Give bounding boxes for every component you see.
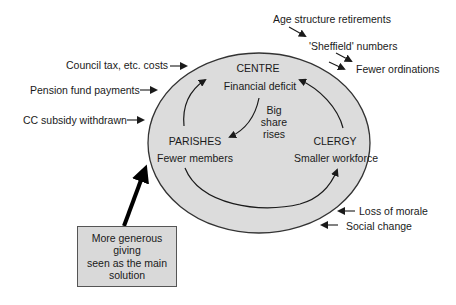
- pressure-council-tax: Council tax, etc. costs: [66, 59, 168, 71]
- solution-line-1: More generous: [92, 232, 163, 245]
- node-centre-title: CENTRE: [226, 62, 290, 74]
- arrow-solution: [124, 172, 144, 226]
- pressure-sheffield-numbers: 'Sheffield' numbers: [309, 40, 397, 52]
- solution-line-4: solution: [109, 269, 145, 282]
- node-clergy-subtitle: Smaller workforce: [290, 152, 382, 164]
- arrow-fewer-ordinations: [329, 62, 344, 69]
- solution-box: More generous giving seen as the main so…: [77, 226, 177, 287]
- node-parishes-title: PARISHES: [160, 135, 230, 147]
- pressure-cc-subsidy: CC subsidy withdrawn: [23, 114, 127, 126]
- solution-line-3: seen as the main: [87, 257, 167, 270]
- pressure-age-structure: Age structure retirements: [273, 13, 391, 25]
- node-centre-subtitle: Financial deficit: [218, 80, 302, 92]
- pressure-loss-of-morale: Loss of morale: [359, 205, 428, 217]
- node-clergy-title: CLERGY: [305, 135, 365, 147]
- arrow-sheffield: [336, 53, 351, 61]
- pressure-social-change: Social change: [346, 220, 412, 232]
- pressure-fewer-ordinations: Fewer ordinations: [356, 63, 439, 75]
- big-share-rises-line1: Big: [256, 104, 292, 116]
- pressure-pension-fund: Pension fund payments: [30, 84, 140, 96]
- node-parishes-subtitle: Fewer members: [151, 152, 239, 164]
- solution-line-2: giving: [113, 244, 140, 257]
- big-share-rises-line2: share: [256, 116, 292, 128]
- big-share-rises-line3: rises: [256, 128, 292, 140]
- arrow-age-structure: [289, 27, 305, 36]
